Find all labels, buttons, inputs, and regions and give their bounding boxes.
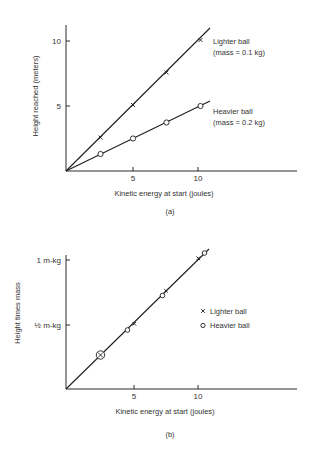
legend-circle-icon xyxy=(201,323,205,327)
circle-marker-icon xyxy=(198,103,203,108)
legend-heavier-ball: Heavier ball xyxy=(210,321,250,330)
circle-marker-icon xyxy=(98,151,103,156)
x-tick-label-5-a: 5 xyxy=(131,174,136,183)
lighter-ball-markers-b xyxy=(133,257,201,326)
cross-marker-icon xyxy=(164,289,168,293)
x-axis-label-b: Kinetic energy at start (joules) xyxy=(115,407,215,416)
x-tick-label-5-b: 5 xyxy=(132,392,137,401)
y-tick-label-5-a: 5 xyxy=(57,102,62,111)
heavier-ball-label: Heavier ball xyxy=(213,107,253,116)
legend-lighter-ball: Lighter ball xyxy=(210,307,247,316)
chart-a: 10 5 5 10 Height reached (meters) Kineti… xyxy=(31,25,297,216)
y-tick-label-1-b: 1 m-kg xyxy=(37,256,61,265)
lighter-ball-label: Lighter ball xyxy=(213,37,250,46)
figure: 10 5 5 10 Height reached (meters) Kineti… xyxy=(0,0,313,459)
x-tick-label-10-b: 10 xyxy=(194,392,203,401)
legend-b: Lighter ball Heavier ball xyxy=(201,307,250,330)
caption-b: (b) xyxy=(165,430,175,439)
circle-marker-icon xyxy=(160,293,165,298)
legend-cross-icon xyxy=(201,309,205,313)
lighter-ball-line-a xyxy=(66,28,210,171)
chart-b: 1 m-kg ½ m-kg 5 10 Height times mass Kin… xyxy=(13,249,297,439)
circle-marker-icon xyxy=(125,328,130,333)
cross-marker-icon xyxy=(131,103,135,107)
y-axis-label-b: Height times mass xyxy=(13,282,22,344)
lighter-ball-mass: (mass = 0.1 kg) xyxy=(213,48,265,57)
circle-marker-icon xyxy=(202,251,207,256)
heavier-ball-mass: (mass = 0.2 kg) xyxy=(213,118,265,127)
fit-line-b xyxy=(66,249,209,389)
cross-marker-icon xyxy=(199,38,203,42)
x-axis-label-a: Kinetic energy at start (joules) xyxy=(114,189,214,198)
x-tick-label-10-a: 10 xyxy=(194,174,203,183)
circle-marker-icon xyxy=(130,136,135,141)
lighter-ball-markers-a xyxy=(99,38,203,140)
y-axis-label-a: Height reached (meters) xyxy=(31,55,40,136)
y-tick-label-10-a: 10 xyxy=(52,37,61,46)
y-tick-label-half-b: ½ m-kg xyxy=(34,321,61,330)
coincident-point-b xyxy=(96,351,104,359)
circle-marker-icon xyxy=(164,120,169,125)
heavier-ball-line-a xyxy=(66,101,210,171)
caption-a: (a) xyxy=(165,207,175,216)
